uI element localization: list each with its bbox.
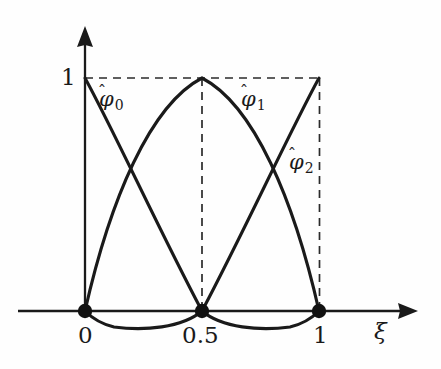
phi0-base-glyph: φ (99, 87, 114, 111)
axes (18, 26, 418, 319)
x-tick-label-1: 1 (313, 324, 328, 347)
curve-label-phi1: ̂φ1 (240, 89, 266, 112)
phi2-subscript: 2 (305, 160, 314, 176)
phi1-subscript: 1 (257, 97, 266, 113)
x-tick-label-0.5: 0.5 (182, 324, 219, 347)
phi0-subscript: 0 (115, 97, 124, 113)
phi1-base-glyph: φ (241, 87, 256, 111)
plot-canvas (0, 0, 441, 369)
node-dot-xi-half (195, 304, 209, 318)
y-axis-arrowhead (77, 26, 93, 47)
node-dot-xi-0 (78, 304, 92, 318)
phi0-symbol: ̂φ (98, 89, 115, 110)
phi1-symbol: ̂φ (240, 89, 257, 110)
shape-function-figure: 1 0 0.5 1 ξ ̂φ0 ̂φ1 ̂φ2 (0, 0, 441, 369)
x-axis-arrowhead (398, 303, 418, 319)
phi2-symbol: ̂φ (288, 152, 305, 173)
x-tick-label-0: 0 (78, 324, 93, 347)
y-tick-label-1: 1 (61, 66, 76, 89)
curve-label-phi2: ̂φ2 (288, 152, 314, 175)
node-dot-xi-one (312, 304, 326, 318)
x-axis-label-xi: ξ (374, 320, 387, 343)
curve-label-phi0: ̂φ0 (98, 89, 124, 112)
phi2-base-glyph: φ (289, 150, 304, 174)
